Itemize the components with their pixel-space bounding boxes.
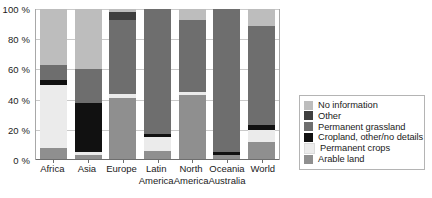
bar-stack[interactable] (248, 9, 275, 160)
x-axis-label-line: Africa (35, 163, 70, 175)
bar-segment (248, 142, 275, 160)
bar-slot (244, 9, 279, 160)
bar-segment (109, 12, 136, 20)
legend-item[interactable]: Permanent crops (304, 143, 420, 153)
legend-swatch-icon (304, 122, 313, 131)
bar-segment (40, 85, 67, 148)
x-axis-label-line: Oceania (208, 163, 245, 175)
chart-root: 0 %20 %40 %60 %80 %100 % AfricaAsiaEurop… (0, 0, 432, 198)
legend-swatch-icon (304, 101, 313, 110)
x-axis-label-line: America (174, 175, 209, 187)
x-axis-label: Europe (104, 163, 139, 186)
bar-stack[interactable] (179, 9, 206, 160)
y-tick-label: 100 % (3, 4, 30, 15)
x-axis-label: OceaniaAustralia (208, 163, 245, 186)
bar-stack[interactable] (40, 9, 67, 160)
bar-slot (105, 9, 140, 160)
bar-segment (75, 9, 102, 69)
legend-item[interactable]: Other (304, 111, 420, 121)
legend-label: Arable land (318, 154, 364, 164)
x-axis-label: LatinAmerica (139, 163, 174, 186)
x-axis-label: Asia (70, 163, 105, 186)
bars-layer (36, 9, 279, 160)
legend-item[interactable]: Permanent grassland (304, 122, 420, 132)
bar-stack[interactable] (213, 9, 240, 160)
bar-stack[interactable] (75, 9, 102, 160)
x-axis-labels: AfricaAsiaEuropeLatinAmericaNorthAmerica… (35, 163, 280, 186)
bar-segment (75, 69, 102, 102)
plot-area (35, 9, 280, 160)
legend-label: Permanent grassland (318, 122, 405, 132)
legend-label: Permanent crops (320, 143, 390, 153)
bar-slot (140, 9, 175, 160)
bar-segment (75, 103, 102, 153)
y-tick-label: 20 % (8, 124, 30, 135)
y-tick-label: 0 % (13, 155, 30, 166)
x-axis-label: Africa (35, 163, 70, 186)
x-axis-label-line: Asia (70, 163, 105, 175)
legend-item[interactable]: No information (304, 100, 420, 110)
bar-slot (210, 9, 245, 160)
legend-label: No information (318, 100, 378, 110)
bar-segment (213, 9, 240, 152)
y-tick-label: 40 % (8, 94, 30, 105)
bar-segment (109, 98, 136, 160)
bar-segment (40, 65, 67, 80)
y-tick-label: 80 % (8, 34, 30, 45)
x-axis-label-line: North (174, 163, 209, 175)
x-axis-label-line: Europe (104, 163, 139, 175)
bar-segment (40, 9, 67, 65)
bar-slot (175, 9, 210, 160)
legend-swatch-icon (304, 111, 313, 120)
bar-segment (109, 20, 136, 94)
y-axis: 0 %20 %40 %60 %80 %100 % (0, 0, 33, 160)
legend-item[interactable]: Arable land (304, 154, 420, 164)
x-axis-baseline (36, 159, 279, 160)
bar-stack[interactable] (109, 9, 136, 160)
bar-segment (179, 95, 206, 160)
bar-stack[interactable] (144, 9, 171, 160)
bar-segment (179, 20, 206, 92)
bar-segment (248, 130, 275, 142)
bar-segment (144, 9, 171, 134)
x-axis-label-line: America (139, 175, 174, 187)
legend-item[interactable]: Cropland, other/no details (304, 132, 420, 142)
bar-segment (179, 9, 206, 20)
chart-legend: No informationOtherPermanent grasslandCr… (299, 95, 425, 170)
bar-segment (248, 9, 275, 26)
legend-swatch-icon (304, 143, 315, 154)
legend-swatch-icon (304, 133, 313, 142)
bar-slot (71, 9, 106, 160)
y-tick-label: 60 % (8, 64, 30, 75)
bar-segment (248, 26, 275, 126)
chart-plot-wrapper: 0 %20 %40 %60 %80 %100 % AfricaAsiaEurop… (0, 0, 290, 198)
legend-swatch-icon (304, 155, 313, 164)
legend-label: Cropland, other/no details (318, 132, 423, 142)
x-axis-label: World (245, 163, 280, 186)
legend-label: Other (318, 111, 341, 121)
x-axis-label-line: Latin (139, 163, 174, 175)
bar-segment (144, 137, 171, 151)
x-axis-label-line: World (245, 163, 280, 175)
x-axis-label-line: Australia (208, 175, 245, 187)
bar-slot (36, 9, 71, 160)
x-axis-label: NorthAmerica (174, 163, 209, 186)
